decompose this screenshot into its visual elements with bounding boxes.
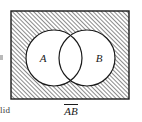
caption-formula: AB bbox=[0, 104, 142, 117]
set-b-label: B bbox=[96, 52, 103, 64]
shaded-complement-region bbox=[11, 11, 129, 99]
caption-a-overline: A bbox=[64, 104, 71, 117]
caption-b-overline: B bbox=[71, 104, 78, 117]
venn-figure: A B lid AB bbox=[0, 0, 142, 122]
caption-row: lid AB bbox=[0, 103, 142, 122]
page-edge-artifact bbox=[0, 55, 3, 60]
set-a-label: A bbox=[39, 52, 47, 64]
